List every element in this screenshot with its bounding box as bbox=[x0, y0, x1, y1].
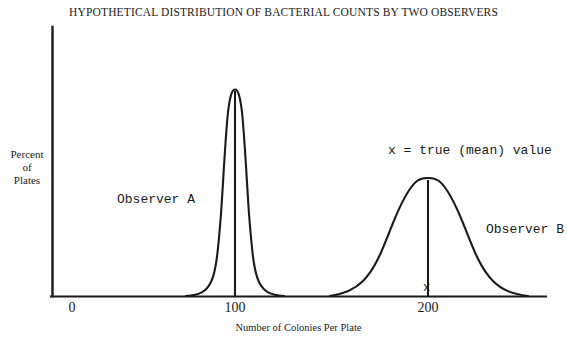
y-axis-title: PercentofPlates bbox=[4, 148, 50, 187]
series-label-observer-b: Observer B bbox=[486, 222, 564, 237]
x-axis-tick-label-100: 100 bbox=[205, 300, 265, 316]
mean-value-annotation: x = true (mean) value bbox=[388, 143, 552, 158]
chart-figure: HYPOTHETICAL DISTRIBUTION OF BACTERIAL C… bbox=[0, 0, 567, 341]
chart-plot-area bbox=[0, 0, 567, 341]
mean-marker-label: x bbox=[423, 281, 430, 295]
x-axis-title: Number of Colonies Per Plate bbox=[52, 322, 545, 333]
y-axis-title-line-2: of bbox=[22, 161, 31, 173]
y-axis-title-line-1: Percent bbox=[11, 148, 44, 160]
y-axis-title-line-3: Plates bbox=[14, 174, 40, 186]
chart-title: HYPOTHETICAL DISTRIBUTION OF BACTERIAL C… bbox=[0, 6, 567, 18]
x-axis-tick-label-200: 200 bbox=[398, 300, 458, 316]
x-axis-tick-label-0: 0 bbox=[42, 300, 102, 316]
series-label-observer-a: Observer A bbox=[117, 192, 195, 207]
